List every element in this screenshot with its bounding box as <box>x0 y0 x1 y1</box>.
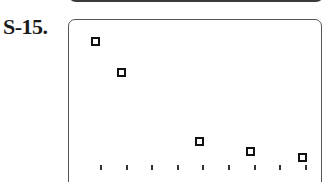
x-axis-tick <box>202 165 204 170</box>
x-axis-tick <box>305 165 307 170</box>
data-point-marker <box>91 37 100 46</box>
data-point-marker <box>246 147 255 156</box>
data-point-marker <box>117 68 126 77</box>
x-axis-tick <box>254 165 256 170</box>
data-point-marker <box>195 137 204 146</box>
calculator-screen <box>68 19 322 182</box>
x-axis-tick <box>177 165 179 170</box>
previous-calculator-screen-edge <box>68 0 324 2</box>
problem-label: S-15. <box>3 14 48 40</box>
x-axis-tick <box>126 165 128 170</box>
x-axis-tick <box>100 165 102 170</box>
x-axis-tick <box>228 165 230 170</box>
x-axis-tick <box>151 165 153 170</box>
data-point-marker <box>298 153 307 162</box>
x-axis-tick <box>279 165 281 170</box>
